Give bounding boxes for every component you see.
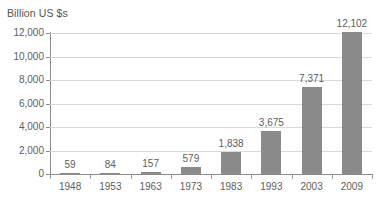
y-axis-label: 2,000: [0, 146, 44, 156]
x-axis-tick: [211, 174, 212, 179]
bar-1983[interactable]: [221, 152, 241, 174]
bar-value-2003: 7,371: [282, 74, 342, 84]
gridline-12000: [50, 33, 372, 34]
y-axis-label: 0: [0, 169, 44, 179]
y-axis-label: 8,000: [0, 75, 44, 85]
gridline-10000: [50, 57, 372, 58]
gridline-2000: [50, 151, 372, 152]
x-axis-tick: [292, 174, 293, 179]
x-axis-tick: [131, 174, 132, 179]
x-axis-tick: [332, 174, 333, 179]
bar-chart: Billion US $s 02,0004,0006,0008,00010,00…: [0, 0, 377, 202]
gridline-4000: [50, 127, 372, 128]
bar-1973[interactable]: [181, 167, 201, 174]
bar-value-1983: 1,838: [201, 139, 261, 149]
bar-value-1993: 3,675: [241, 118, 301, 128]
x-axis-tick: [50, 174, 51, 179]
y-axis-label: 6,000: [0, 99, 44, 109]
x-axis-ticks: [50, 174, 372, 180]
gridline-6000: [50, 104, 372, 105]
x-axis-tick: [171, 174, 172, 179]
y-axis-label: 10,000: [0, 52, 44, 62]
x-axis-label-2009: 2009: [327, 181, 377, 192]
x-axis-tick: [90, 174, 91, 179]
bar-1993[interactable]: [261, 131, 281, 174]
y-axis-label: 4,000: [0, 122, 44, 132]
bar-value-1973: 579: [161, 154, 221, 164]
y-axis-title: Billion US $s: [7, 7, 68, 19]
x-axis-tick: [372, 174, 373, 179]
y-axis-label: 12,000: [0, 28, 44, 38]
x-axis-tick: [251, 174, 252, 179]
bar-2009[interactable]: [342, 32, 362, 174]
bar-value-2009: 12,102: [322, 19, 377, 29]
plot-area: [50, 33, 372, 174]
bar-2003[interactable]: [302, 87, 322, 174]
